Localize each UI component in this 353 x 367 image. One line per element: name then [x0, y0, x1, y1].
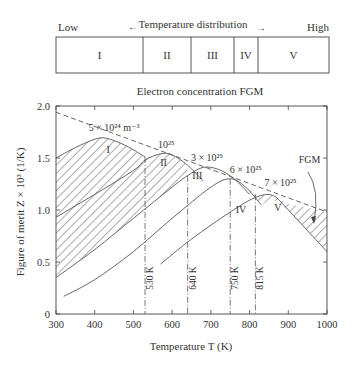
right-arrow-icon: →: [256, 22, 266, 33]
x-tick-label: 700: [203, 319, 219, 330]
x-tick-label: 900: [280, 319, 296, 330]
y-tick-label: 2.0: [37, 101, 50, 112]
segment-label: III: [207, 49, 218, 61]
y-tick-label: 1.5: [37, 153, 50, 164]
annotation-label: IV: [236, 204, 247, 215]
boundary-label: 815 K: [255, 266, 265, 290]
x-tick-label: 500: [126, 319, 142, 330]
annotation-label: II: [160, 157, 167, 168]
left-arrow-icon: ←: [128, 21, 138, 32]
hatched-region-low: [56, 138, 188, 278]
annotation-label: 3 × 10²⁵: [191, 152, 223, 163]
y-tick-label: 1.0: [37, 205, 50, 216]
annotation-label: 5 × 10²⁴ m⁻³: [89, 122, 140, 133]
temperature-distribution-title: Temperature distribution: [139, 18, 248, 30]
boundary-label: 640 K: [188, 266, 198, 290]
segment-label: I: [98, 49, 102, 61]
x-tick-label: 600: [164, 319, 180, 330]
annotation-label: 6 × 10²⁵: [230, 164, 262, 175]
annotation-label: V: [274, 202, 282, 213]
annotation-label: I: [107, 144, 110, 155]
annotation-label: III: [192, 170, 202, 181]
x-tick-label: 800: [242, 319, 258, 330]
boundary-label: 530 K: [145, 266, 155, 290]
x-tick-label: 300: [48, 319, 64, 330]
x-tick-label: 1000: [317, 319, 338, 330]
x-tick-label: 400: [87, 319, 103, 330]
annotation-label: 10²⁵: [158, 139, 174, 150]
annotation-label: FGM: [299, 154, 321, 165]
segments: IIIIIIIVV: [98, 37, 298, 73]
y-axis-label: Figure of merit Z × 10³ (1/K): [14, 147, 27, 276]
y-tick-label: 0: [45, 309, 50, 320]
annotation-label: 7 × 10²⁵: [264, 177, 296, 188]
boundary-label: 750 K: [230, 266, 240, 290]
plot-area: 530 K640 K750 K815 K 3004005006007008009…: [37, 101, 338, 330]
figure-of-merit-chart: Low High ← Temperature distribution → II…: [0, 0, 353, 367]
chart-subtitle: Electron concentration FGM: [137, 85, 264, 97]
segment-label: II: [163, 49, 171, 61]
segment-label: IV: [240, 49, 252, 61]
low-label: Low: [58, 21, 78, 33]
segment-label: V: [290, 49, 298, 61]
high-label: High: [307, 21, 330, 33]
y-tick-label: 0.5: [37, 257, 50, 268]
x-axis-label: Temperature T (K): [150, 340, 233, 353]
temperature-distribution-bar: Low High ← Temperature distribution → II…: [56, 18, 330, 73]
